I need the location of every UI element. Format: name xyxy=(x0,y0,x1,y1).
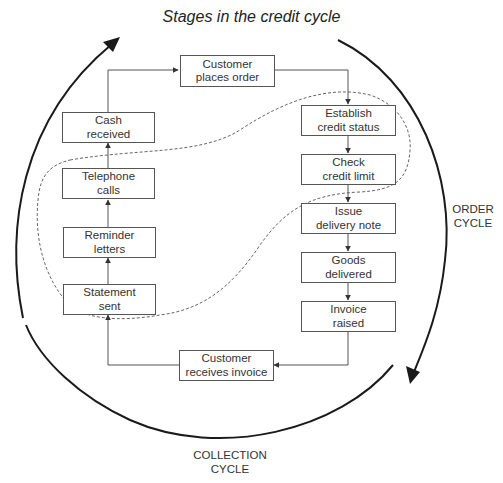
collection-cycle-label: COLLECTION CYCLE xyxy=(185,449,275,476)
order-cycle-line2: CYCLE xyxy=(448,217,498,231)
stage-label: credit limit xyxy=(323,170,375,184)
stage-label: Cash xyxy=(95,114,122,128)
stage-label: raised xyxy=(333,317,364,331)
arrowhead-icon xyxy=(406,366,420,384)
order-cycle-line1: ORDER xyxy=(448,203,498,217)
credit-cycle-diagram: Stages in the credit cycle Customer plac… xyxy=(0,0,503,483)
stage-label: places order xyxy=(196,71,259,85)
stage-label: Customer xyxy=(202,352,252,366)
order-cycle-label: ORDER CYCLE xyxy=(448,203,498,230)
stage-invoice-raised: Invoice raised xyxy=(301,301,396,332)
stage-cash-received: Cash received xyxy=(62,112,155,143)
stage-label: calls xyxy=(97,184,120,198)
collection-cycle-line2: CYCLE xyxy=(185,463,275,477)
stage-label: Reminder xyxy=(85,229,135,243)
stage-check-credit-limit: Check credit limit xyxy=(301,154,396,185)
stage-label: receives invoice xyxy=(186,366,268,380)
stage-label: Issue xyxy=(335,205,363,219)
collection-cycle-line1: COLLECTION xyxy=(185,449,275,463)
stage-label: delivery note xyxy=(316,219,381,233)
stage-label: Establish xyxy=(325,107,372,121)
stage-goods-delivered: Goods delivered xyxy=(301,252,396,283)
stage-label: Check xyxy=(332,156,365,170)
collection-cycle-arc-bottom xyxy=(26,325,393,438)
stage-label: Goods xyxy=(332,254,366,268)
stage-customer-places-order: Customer places order xyxy=(180,55,275,87)
diagram-title: Stages in the credit cycle xyxy=(0,8,503,26)
stage-label: sent xyxy=(99,300,121,314)
stage-label: letters xyxy=(94,243,125,257)
stage-telephone-calls: Telephone calls xyxy=(62,168,155,199)
stage-label: credit status xyxy=(318,121,380,135)
stage-customer-receives-invoice: Customer receives invoice xyxy=(179,350,274,381)
stage-label: Invoice xyxy=(330,303,366,317)
stage-label: Customer xyxy=(203,58,253,72)
stage-issue-delivery-note: Issue delivery note xyxy=(301,203,396,234)
stage-label: received xyxy=(87,128,130,142)
stage-label: Statement xyxy=(83,286,135,300)
stage-reminder-letters: Reminder letters xyxy=(63,227,156,258)
stage-label: delivered xyxy=(325,268,372,282)
stage-statement-sent: Statement sent xyxy=(63,284,156,315)
stage-establish-credit-status: Establish credit status xyxy=(301,105,396,136)
stage-label: Telephone xyxy=(82,170,135,184)
